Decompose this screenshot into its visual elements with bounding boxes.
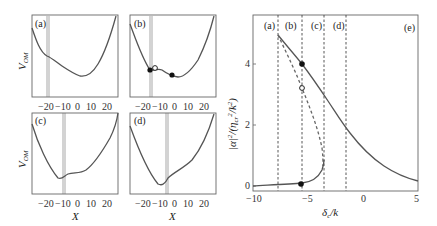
region-label-d: (d) <box>333 20 345 32</box>
upper-branch-curve <box>278 35 418 181</box>
tick-label: 0 <box>172 198 177 209</box>
panel-e: (a) (b) (c) (d) (e) 4 2 0 −10 −5 0 5 δc/… <box>226 15 419 220</box>
shaded-band <box>62 113 66 194</box>
tick-label: 0 <box>361 193 366 204</box>
y-axis-label-bottom: VOM <box>16 149 30 168</box>
tick-label: −10 <box>55 198 71 209</box>
filled-marker <box>147 67 152 72</box>
region-label-a: (a) <box>264 20 275 32</box>
tick-label: 20 <box>199 198 209 209</box>
shaded-band <box>149 16 153 97</box>
svg-text:VOM: VOM <box>16 51 30 70</box>
y-axis-label: |α|2/(ηcr2/k2) <box>226 98 240 150</box>
region-label-b: (b) <box>285 20 297 32</box>
tick-label: 20 <box>102 101 112 112</box>
tick-label: −20 <box>38 101 54 112</box>
y-axis-label-top: VOM <box>16 51 30 70</box>
tick-label: −20 <box>135 198 151 209</box>
tick-label: 0 <box>245 180 250 191</box>
filled-marker <box>169 72 174 77</box>
panel-label: (b) <box>134 18 146 30</box>
tick-label: 20 <box>102 198 112 209</box>
tick-label: −10 <box>246 193 262 204</box>
x-axis-label: X <box>71 210 80 222</box>
tick-label: −10 <box>152 101 168 112</box>
panel-label: (a) <box>35 18 46 30</box>
tick-label: 4 <box>245 58 250 69</box>
region-label-c: (c) <box>311 20 322 32</box>
left-x-ticks-bottom: −20 −10 0 10 20 −20 −10 0 10 20 <box>38 198 209 209</box>
left-x-ticks-top: −20 −10 0 10 20 −20 −10 0 10 20 <box>38 101 209 112</box>
tick-label: 20 <box>199 101 209 112</box>
panel-d: (d) <box>130 113 216 194</box>
panel-a: (a) <box>32 15 118 97</box>
tick-label: 0 <box>75 198 80 209</box>
tick-label: 0 <box>75 101 80 112</box>
lower-branch-curve <box>253 160 324 186</box>
figure: (a) (b) (c) (d) −20 −10 0 10 20 −20 −10 … <box>0 0 437 226</box>
open-marker <box>153 66 158 71</box>
panel-b: (b) <box>130 15 216 97</box>
panel-label: (d) <box>134 115 146 127</box>
tick-label: −5 <box>302 193 313 204</box>
tick-label: 10 <box>183 101 193 112</box>
filled-marker <box>299 61 305 67</box>
tick-label: −10 <box>152 198 168 209</box>
tick-label: 10 <box>183 198 193 209</box>
filled-marker <box>298 181 304 187</box>
svg-text:|α|2/(ηcr2/k2): |α|2/(ηcr2/k2) <box>226 98 240 150</box>
tick-label: 0 <box>172 101 177 112</box>
x-axis-label: δc/k <box>322 206 339 220</box>
svg-text:VOM: VOM <box>16 149 30 168</box>
tick-label: 10 <box>86 198 96 209</box>
tick-label: 10 <box>86 101 96 112</box>
panel-label: (e) <box>404 22 415 34</box>
tick-label: −20 <box>38 198 54 209</box>
tick-label: −10 <box>55 101 71 112</box>
tick-label: 2 <box>245 119 250 130</box>
tick-label: −20 <box>135 101 151 112</box>
panel-c: (c) <box>32 113 118 194</box>
unstable-branch-curve <box>278 35 323 166</box>
panel-label: (c) <box>35 115 46 127</box>
open-marker <box>300 86 305 91</box>
x-axis-label: X <box>168 210 177 222</box>
tick-label: 5 <box>414 193 419 204</box>
